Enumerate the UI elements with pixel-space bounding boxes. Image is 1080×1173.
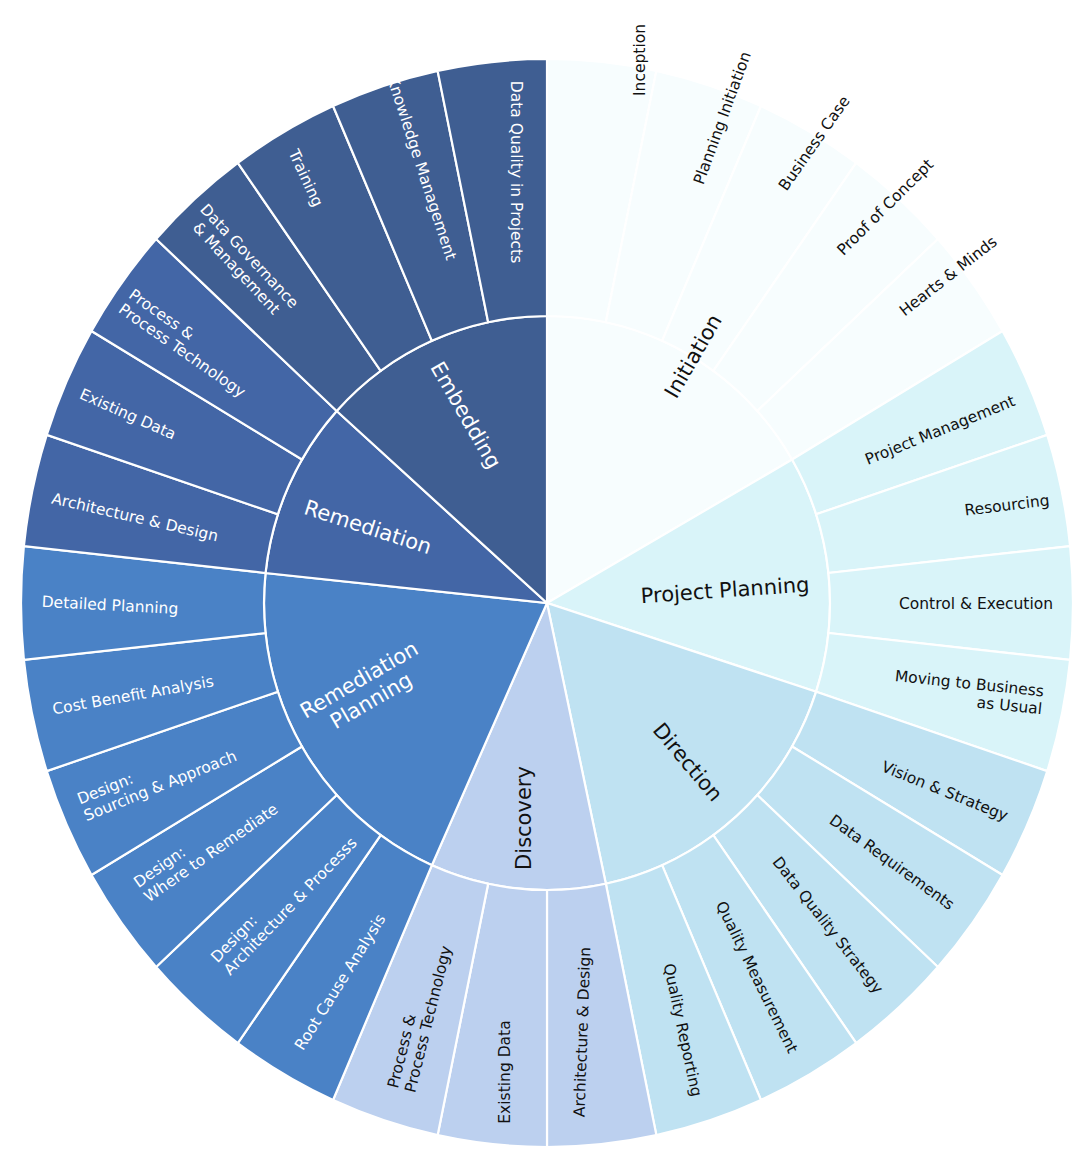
phase-label-discovery: Discovery xyxy=(512,766,536,870)
sunburst-chart: InitiationInceptionPlanning InitiationBu… xyxy=(0,0,1080,1173)
leaf-label-embedding-data-quality-in-projects: Data Quality in Projects xyxy=(507,81,525,263)
leaf-label-initiation-inception: Inception xyxy=(631,24,649,96)
leaf-label-project-planning-control-execution: Control & Execution xyxy=(899,595,1053,613)
leaf-label-discovery-existing-data: Existing Data xyxy=(496,1020,514,1123)
